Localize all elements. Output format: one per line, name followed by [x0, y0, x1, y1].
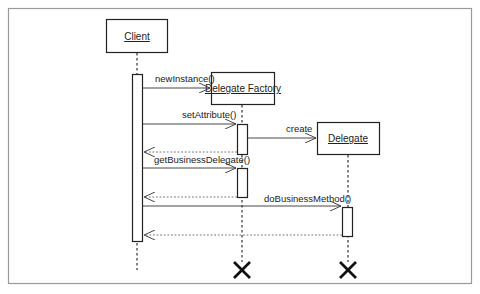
participant-factory: Delegate Factory [205, 73, 281, 105]
participant-factory-label: Delegate Factory [205, 83, 281, 94]
message-setattribute: setAttribute() [143, 109, 236, 124]
factory-activation-2 [238, 169, 248, 198]
svg-text:getBusinessDelegate(): getBusinessDelegate() [154, 154, 250, 165]
participant-client: Client [107, 20, 168, 53]
participant-delegate: Delegate [318, 123, 380, 155]
factory-destroy-icon [234, 262, 250, 278]
delegate-activation [343, 208, 353, 237]
client-activation [133, 75, 143, 242]
delegate-destroy-icon [340, 262, 356, 278]
svg-text:doBusinessMethod(): doBusinessMethod() [264, 193, 351, 204]
sequence-diagram: Client Delegate Factory Delegate newInst… [0, 0, 480, 294]
message-newinstance: newInstance() [143, 73, 215, 88]
message-create: create [248, 123, 316, 138]
message-getbusinessdelegate: getBusinessDelegate() [143, 154, 250, 168]
participant-client-label: Client [124, 31, 150, 42]
svg-text:setAttribute(): setAttribute() [182, 109, 236, 120]
participant-delegate-label: Delegate [328, 133, 368, 144]
factory-activation-1 [238, 125, 248, 155]
svg-text:newInstance(): newInstance() [155, 73, 215, 84]
svg-text:create: create [286, 123, 312, 134]
